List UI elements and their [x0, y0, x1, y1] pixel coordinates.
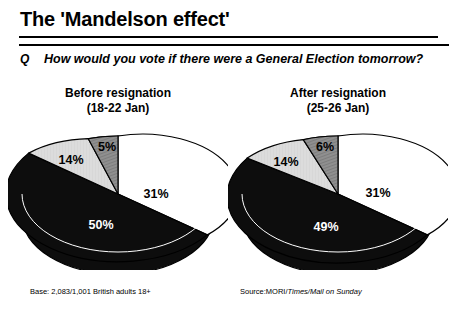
pie-after-svg [228, 120, 448, 270]
panel-after-period: (25-26 Jan) [228, 101, 448, 116]
panel-after-title: After resignation [290, 86, 386, 100]
panel-before-heading: Before resignation (18-22 Jan) [8, 86, 228, 116]
panel-after-heading: After resignation (25-26 Jan) [228, 86, 448, 116]
pie-chart-before: 31% 50% 14% 5% [8, 120, 228, 270]
question-marker: Q [20, 52, 29, 66]
source-prefix: Source:MORI/ [240, 287, 288, 296]
source-note: Source:MORI/Times/Mail on Sunday [240, 287, 362, 296]
base-note: Base: 2,083/1,001 British adults 18+ [30, 287, 151, 296]
pie-before-label-black: 50% [88, 218, 113, 232]
pie-after-label-black: 49% [313, 220, 338, 234]
pie-after-label-white: 31% [365, 186, 390, 200]
pie-after-label-lightgrey: 14% [273, 155, 298, 169]
title-rule [19, 36, 438, 38]
panel-before-title: Before resignation [65, 86, 171, 100]
pie-before-label-white: 31% [143, 187, 168, 201]
panel-after-resignation: After resignation (25-26 Jan) [228, 86, 448, 270]
page-title: The 'Mandelson effect' [20, 8, 230, 31]
pie-chart-after: 31% 49% 14% 6% [228, 120, 448, 270]
pie-after-label-midgrey: 6% [316, 140, 334, 154]
source-publication: Times/Mail on Sunday [288, 287, 362, 296]
chart-page: The 'Mandelson effect' Q How would you v… [0, 0, 460, 315]
pie-before-svg [8, 120, 228, 270]
question-text: How would you vote if there were a Gener… [44, 52, 434, 66]
pie-before-label-lightgrey: 14% [58, 153, 83, 167]
pie-before-label-midgrey: 5% [98, 140, 116, 154]
question-rule [19, 44, 449, 46]
panel-before-resignation: Before resignation (18-22 Jan) [8, 86, 228, 270]
panel-before-period: (18-22 Jan) [8, 101, 228, 116]
